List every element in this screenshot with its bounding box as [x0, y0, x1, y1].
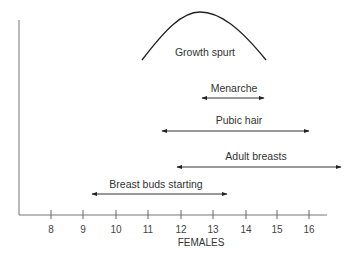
tick-label: 15: [271, 224, 283, 235]
tick-label: 13: [207, 224, 219, 235]
x-tick-labels: 8 9 10 11 12 13 14 15 16: [48, 224, 315, 235]
tick-label: 14: [240, 224, 252, 235]
growth-spurt-label: Growth spurt: [175, 46, 235, 58]
menarche-label: Menarche: [211, 82, 258, 94]
pubic-hair-label: Pubic hair: [216, 114, 263, 126]
tick-label: 12: [175, 224, 187, 235]
tick-label: 8: [48, 224, 54, 235]
adult-breasts-label: Adult breasts: [225, 150, 286, 162]
tick-label: 10: [110, 224, 122, 235]
tick-label: 9: [80, 224, 86, 235]
tick-label: 11: [143, 224, 154, 235]
x-axis-title: FEMALES: [178, 237, 225, 248]
puberty-timeline-chart: 8 9 10 11 12 13 14 15 16 FEMALES Growth …: [0, 0, 351, 254]
breast-buds-label: Breast buds starting: [109, 178, 203, 190]
tick-label: 16: [303, 224, 315, 235]
